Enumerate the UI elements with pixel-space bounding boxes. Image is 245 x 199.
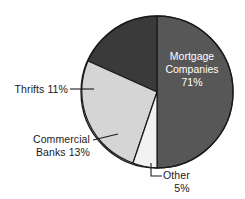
pie-label-thrifts: Thrifts 11% <box>4 83 68 96</box>
pie-label-commercial-banks: Commercial Banks 13% <box>10 133 90 158</box>
pie-label-mortgage-companies-line1: Mortgage <box>156 50 228 63</box>
pie-label-commercial-banks-line1: Commercial <box>10 133 90 146</box>
pie-chart: Mortgage Companies 71% Thrifts 11% Comme… <box>0 0 245 199</box>
pie-label-thrifts-text: Thrifts 11% <box>4 83 68 96</box>
pie-label-other: Other 5% <box>163 169 207 194</box>
pie-label-other-value: 5% <box>157 182 207 195</box>
pie-chart-graphic <box>0 0 245 199</box>
pie-label-other-text: Other <box>163 169 207 182</box>
pie-label-mortgage-companies-line2: Companies <box>156 63 228 76</box>
pie-label-mortgage-companies: Mortgage Companies 71% <box>156 50 228 89</box>
pie-label-commercial-banks-line2: Banks 13% <box>10 146 90 159</box>
pie-slice-mortgage-companies[interactable] <box>157 16 233 168</box>
pie-label-mortgage-companies-value: 71% <box>156 76 228 89</box>
